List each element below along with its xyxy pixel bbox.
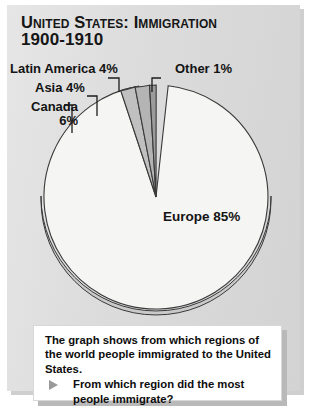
pie-label-latin-america: Latin America 4% <box>10 62 118 76</box>
pie-label-asia: Asia 4% <box>35 81 85 95</box>
question-box-intro: The graph shows from which regions of th… <box>45 333 275 376</box>
question-box-content: The graph shows from which regions of th… <box>45 333 275 406</box>
chart-title-line1: United States: Immigration <box>21 14 293 31</box>
pie-label-europe: Europe 85% <box>163 210 240 225</box>
pie-label-canada-name: Canada <box>31 99 78 114</box>
chart-title-line2: 1900-1910 <box>21 31 293 48</box>
triangle-right-icon <box>49 380 58 390</box>
question-box: The graph shows from which regions of th… <box>33 325 282 401</box>
figure-root: United States: Immigration 1900-1910 Lat… <box>0 0 314 416</box>
question-box-question-row: From which region did the most people im… <box>45 377 275 406</box>
pie-label-canada: Canada 6% <box>16 100 78 128</box>
chart-title: United States: Immigration 1900-1910 <box>21 14 293 48</box>
question-box-question: From which region did the most people im… <box>73 378 244 404</box>
pie-label-canada-value: 6% <box>59 113 78 128</box>
pie-label-other: Other 1% <box>175 62 232 76</box>
